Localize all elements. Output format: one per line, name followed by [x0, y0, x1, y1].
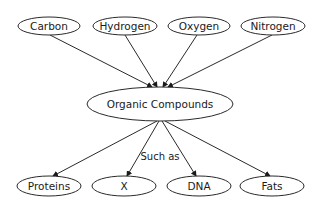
node-carbon: Carbon [18, 17, 80, 35]
node-proteins: Proteins [17, 176, 81, 196]
node-dna: DNA [167, 176, 231, 196]
edge-organic-to-fats [165, 121, 270, 176]
node-x: X [92, 176, 156, 196]
node-label: DNA [187, 180, 211, 192]
edge-carbon-to-organic [50, 35, 152, 87]
node-label: Oxygen [179, 20, 219, 32]
edges-to-center [50, 35, 272, 87]
edge-oxygen-to-organic [163, 35, 197, 87]
node-nitrogen: Nitrogen [241, 17, 305, 35]
node-label: X [120, 180, 127, 192]
node-oxygen: Oxygen [168, 17, 230, 35]
edge-organic-to-x [127, 121, 159, 176]
concept-diagram: Carbon Hydrogen Oxygen Nitrogen Organic … [0, 0, 325, 212]
node-label: Carbon [30, 20, 68, 32]
node-label: Nitrogen [250, 20, 295, 32]
node-label: Fats [261, 180, 282, 192]
node-label: Hydrogen [99, 20, 150, 32]
edge-nitrogen-to-organic [168, 35, 272, 87]
edges-from-center [53, 121, 270, 176]
node-label: Proteins [28, 180, 70, 192]
node-fats: Fats [240, 176, 304, 196]
edge-hydrogen-to-organic [125, 35, 157, 87]
edge-organic-to-dna [162, 121, 196, 176]
edge-label-such-as: Such as [140, 151, 179, 162]
node-organic-compounds: Organic Compounds [87, 87, 233, 121]
node-hydrogen: Hydrogen [93, 17, 157, 35]
edge-organic-to-proteins [53, 121, 157, 176]
node-label: Organic Compounds [107, 98, 214, 110]
